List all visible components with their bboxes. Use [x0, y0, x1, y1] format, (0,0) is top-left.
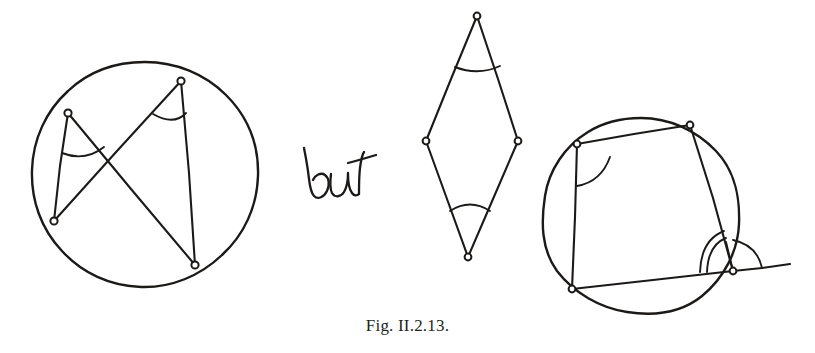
vertex-rhombus-right — [515, 138, 522, 145]
angle-arc-top — [153, 113, 186, 120]
vertex-lower-left — [50, 217, 57, 224]
vertex-top-left — [574, 141, 581, 148]
chord-top-bottomright — [181, 81, 195, 265]
vertex-rhombus-top — [474, 13, 481, 20]
angle-arc-rhombus-bottom — [450, 205, 490, 212]
chord-upperleft-lowerleft — [54, 113, 68, 221]
side-bottomleft-bottomright — [572, 271, 733, 289]
angle-arc-interior-bottom-right-inner — [707, 238, 726, 272]
side-right-bottom — [468, 141, 518, 257]
vertex-bottom-right — [191, 261, 198, 268]
vertex-bottom-left — [569, 286, 576, 293]
angle-arc-exterior-bottom-right — [733, 240, 762, 268]
vertex-rhombus-left — [423, 138, 430, 145]
side-topleft-bottomleft — [572, 144, 577, 289]
letter-b — [304, 148, 329, 198]
side-top-left — [426, 16, 477, 141]
vertex-top-right — [687, 122, 694, 129]
connector-word-but — [304, 148, 376, 198]
chord-top-lowerleft — [54, 81, 181, 221]
side-left-bottom — [426, 141, 468, 257]
side-top-right — [477, 16, 518, 141]
figure-plate — [0, 0, 815, 353]
vertex-rhombus-bottom — [465, 254, 472, 261]
vertex-top — [177, 77, 184, 84]
panel-cyclic-quadrilateral-equal-angles — [32, 62, 258, 287]
circle-outline — [32, 62, 258, 287]
vertex-upper-left — [64, 109, 71, 116]
letter-u — [330, 173, 359, 196]
panel-rhombus-equal-angles — [423, 13, 522, 261]
vertex-bottom-right — [730, 268, 737, 275]
panel-cyclic-quadrilateral-exterior-angle — [543, 118, 790, 314]
figure-caption: Fig. II.2.13. — [0, 316, 815, 336]
angle-arc-top-left — [577, 157, 610, 186]
